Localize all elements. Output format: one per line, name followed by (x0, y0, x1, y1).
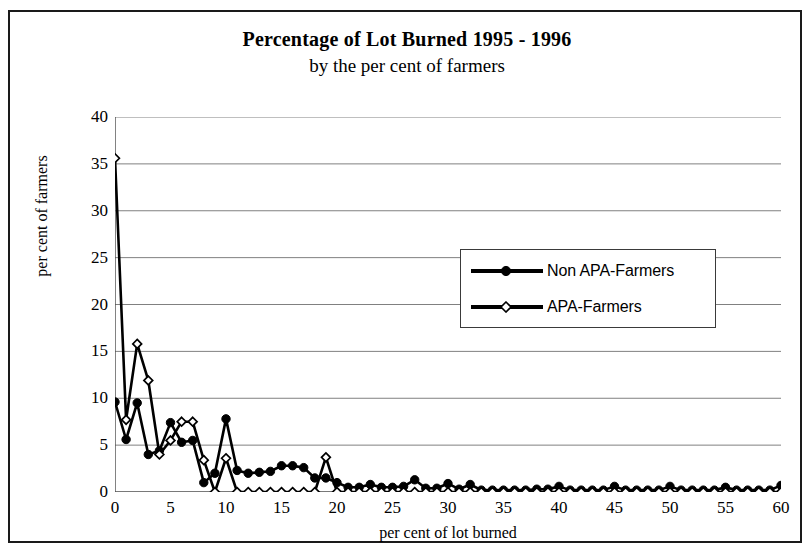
data-point-apa-farmers (115, 154, 119, 163)
data-point-non-apa-farmers (144, 450, 152, 458)
data-point-apa-farmers (144, 376, 153, 385)
x-tick-label: 5 (166, 498, 175, 518)
x-tick-label: 55 (717, 498, 734, 518)
data-point-apa-farmers (188, 417, 197, 426)
legend-item-apa-farmers: APA-Farmers (471, 296, 642, 318)
data-point-non-apa-farmers (300, 463, 308, 471)
chart-frame: Percentage of Lot Burned 1995 - 1996 by … (8, 10, 802, 543)
data-point-non-apa-farmers (189, 436, 197, 444)
data-point-non-apa-farmers (277, 462, 285, 470)
x-tick-label: 20 (329, 498, 346, 518)
y-tick-label: 30 (91, 201, 108, 221)
x-axis-tick-labels: 051015202530354045505560 (115, 498, 795, 522)
data-point-non-apa-farmers (166, 418, 174, 426)
data-point-apa-farmers (122, 415, 131, 424)
data-point-apa-farmers (199, 456, 208, 465)
data-point-non-apa-farmers (222, 415, 230, 423)
data-point-non-apa-farmers (244, 469, 252, 477)
x-tick-label: 50 (662, 498, 679, 518)
data-point-non-apa-farmers (177, 438, 185, 446)
y-tick-label: 5 (100, 435, 109, 455)
data-point-apa-farmers (322, 453, 331, 462)
data-point-apa-farmers (288, 488, 297, 492)
data-point-apa-farmers (211, 488, 220, 492)
y-tick-label: 15 (91, 341, 108, 361)
data-point-apa-farmers (133, 339, 142, 348)
data-point-non-apa-farmers (322, 474, 330, 482)
data-point-non-apa-farmers (333, 478, 341, 486)
data-point-apa-farmers (310, 488, 319, 492)
data-point-apa-farmers (444, 488, 453, 492)
x-tick-label: 30 (440, 498, 457, 518)
data-point-non-apa-farmers (255, 468, 263, 476)
chart-title-block: Percentage of Lot Burned 1995 - 1996 by … (10, 28, 804, 77)
x-tick-label: 60 (773, 498, 790, 518)
x-tick-label: 0 (111, 498, 120, 518)
chart-legend: Non APA-Farmers APA-Farmers (460, 249, 716, 328)
x-tick-label: 45 (606, 498, 623, 518)
data-point-apa-farmers (366, 488, 375, 492)
x-tick-label: 15 (273, 498, 290, 518)
legend-swatch-non-apa (471, 264, 543, 278)
data-point-apa-farmers (233, 488, 242, 492)
data-point-non-apa-farmers (115, 398, 119, 406)
legend-label-apa: APA-Farmers (547, 298, 642, 316)
x-tick-label: 25 (384, 498, 401, 518)
data-point-non-apa-farmers (288, 462, 296, 470)
legend-swatch-apa (471, 300, 543, 314)
y-tick-label: 20 (91, 295, 108, 315)
chart-title: Percentage of Lot Burned 1995 - 1996 (10, 28, 804, 51)
filled-circle-icon (500, 265, 512, 277)
y-tick-label: 10 (91, 388, 108, 408)
y-axis-title: per cent of farmers (33, 126, 51, 306)
x-tick-label: 10 (218, 498, 235, 518)
x-axis-title: per cent of lot burned (115, 524, 781, 542)
data-point-apa-farmers (277, 488, 286, 492)
data-point-apa-farmers (244, 488, 253, 492)
data-point-apa-farmers (466, 488, 475, 492)
y-tick-label: 35 (91, 154, 108, 174)
data-point-non-apa-farmers (122, 435, 130, 443)
x-tick-label: 40 (551, 498, 568, 518)
data-point-apa-farmers (266, 488, 275, 492)
data-point-non-apa-farmers (200, 478, 208, 486)
data-point-non-apa-farmers (311, 474, 319, 482)
data-point-non-apa-farmers (411, 476, 419, 484)
y-axis-tick-labels: 0510152025303540 (65, 117, 108, 492)
legend-label-non-apa: Non APA-Farmers (547, 262, 674, 280)
chart-subtitle: by the per cent of farmers (10, 55, 804, 77)
data-point-non-apa-farmers (233, 466, 241, 474)
legend-item-non-apa-farmers: Non APA-Farmers (471, 260, 674, 282)
data-point-non-apa-farmers (266, 467, 274, 475)
data-point-apa-farmers (299, 488, 308, 492)
y-tick-label: 0 (100, 482, 109, 502)
x-tick-label: 35 (495, 498, 512, 518)
y-tick-label: 25 (91, 248, 108, 268)
data-point-non-apa-farmers (211, 469, 219, 477)
y-tick-label: 40 (91, 107, 108, 127)
open-diamond-icon (500, 301, 512, 313)
data-point-apa-farmers (333, 488, 342, 492)
data-point-non-apa-farmers (133, 399, 141, 407)
data-point-apa-farmers (222, 454, 231, 463)
data-point-apa-farmers (410, 488, 419, 492)
data-point-apa-farmers (255, 488, 264, 492)
